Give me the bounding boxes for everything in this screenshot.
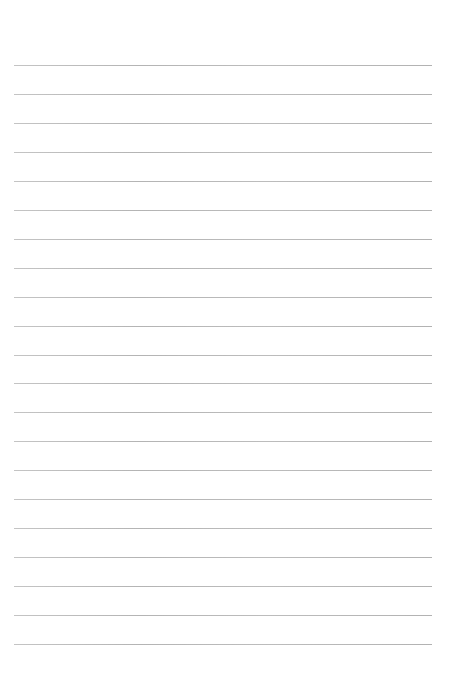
ruled-line bbox=[14, 615, 432, 616]
ruled-line bbox=[14, 383, 432, 384]
ruled-line bbox=[14, 65, 432, 66]
ruled-line bbox=[14, 239, 432, 240]
ruled-line bbox=[14, 152, 432, 153]
ruled-line bbox=[14, 181, 432, 182]
ruled-line bbox=[14, 499, 432, 500]
ruled-line bbox=[14, 123, 432, 124]
ruled-line bbox=[14, 297, 432, 298]
ruled-line bbox=[14, 644, 432, 645]
ruled-line bbox=[14, 441, 432, 442]
ruled-line bbox=[14, 557, 432, 558]
ruled-line bbox=[14, 470, 432, 471]
ruled-line bbox=[14, 326, 432, 327]
ruled-line bbox=[14, 355, 432, 356]
ruled-line bbox=[14, 268, 432, 269]
ruled-line bbox=[14, 412, 432, 413]
ruled-line bbox=[14, 528, 432, 529]
ruled-line bbox=[14, 586, 432, 587]
ruled-line bbox=[14, 210, 432, 211]
lined-paper-page bbox=[0, 0, 453, 676]
ruled-line bbox=[14, 94, 432, 95]
